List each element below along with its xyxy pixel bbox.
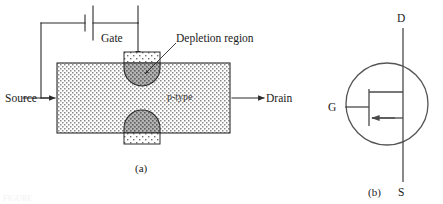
jfet-symbol-circle: [346, 63, 428, 145]
gate-terminal-label: G: [328, 101, 336, 113]
panel-b-group: D G S (b): [328, 12, 428, 199]
figure-caption-fragment: FIGURE: [3, 194, 32, 203]
gate-region-bottom: [124, 133, 160, 144]
panel-b-caption: (b): [368, 186, 381, 199]
battery-symbol: [85, 6, 93, 40]
channel-type-label: p-type: [167, 91, 193, 102]
panel-a-group: Source Drain Gate p-type Depletion regio…: [5, 6, 292, 175]
drain-label: Drain: [266, 92, 292, 104]
panel-a-caption: (a): [135, 162, 148, 175]
source-label: Source: [5, 92, 37, 104]
figure-canvas: Source Drain Gate p-type Depletion regio…: [0, 0, 443, 204]
source-terminal-label: S: [398, 186, 404, 198]
drain-terminal-label: D: [397, 12, 405, 24]
gate-label: Gate: [101, 32, 123, 44]
gate-region-top: [124, 52, 160, 63]
depletion-region-label: Depletion region: [176, 32, 254, 45]
figure-container: Source Drain Gate p-type Depletion regio…: [0, 0, 443, 204]
